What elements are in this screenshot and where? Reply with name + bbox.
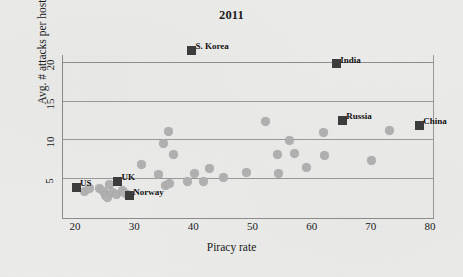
data-point [165,179,174,188]
y-tick-label: 5 [43,178,55,184]
data-point [385,126,394,135]
point-label-norway: Norway [133,188,164,197]
data-point [302,163,311,172]
y-tick-10: 10 [40,132,58,150]
point-label-china: China [423,117,447,126]
point-label-india: India [340,56,361,65]
x-tick-30: 30 [119,220,149,232]
data-point [205,164,214,173]
data-point [159,139,168,148]
data-point [261,117,270,126]
x-tick-20: 20 [60,220,90,232]
data-point [285,136,294,145]
data-point [320,151,329,160]
point-label-uk: UK [121,173,135,182]
y-tick-label: 15 [43,98,55,109]
y-tick-15: 15 [40,94,58,112]
data-point [367,156,376,165]
gridline-y-15 [63,101,433,102]
data-point [242,168,251,177]
y-tick-5: 5 [40,171,58,189]
data-point [274,169,283,178]
data-point [273,150,282,159]
x-axis-label: Piracy rate [0,241,463,253]
point-label-russia: Russia [346,112,372,121]
x-tick-50: 50 [238,220,268,232]
chart-canvas: 2011 Avg. # attacks per host Piracy rate… [0,0,463,277]
chart-title: 2011 [0,8,463,23]
data-point [199,177,208,186]
x-tick-80: 80 [415,220,445,232]
gridline-y-10 [63,139,433,140]
plot-area: USUKNorwayS. KoreaIndiaRussiaChina [62,55,434,219]
point-label-us: US [80,179,92,188]
data-point [190,169,199,178]
y-tick-20: 20 [40,55,58,73]
data-point [319,128,328,137]
point-label-s-korea: S. Korea [195,42,228,51]
x-tick-40: 40 [178,220,208,232]
x-tick-60: 60 [297,220,327,232]
data-point [169,150,178,159]
data-point [137,160,146,169]
gridline-y-20 [63,62,433,63]
data-point [290,149,299,158]
x-tick-70: 70 [356,220,386,232]
y-tick-label: 20 [43,60,55,71]
data-point [183,177,192,186]
data-point [164,127,173,136]
y-tick-label: 10 [43,137,55,148]
data-point [219,173,228,182]
